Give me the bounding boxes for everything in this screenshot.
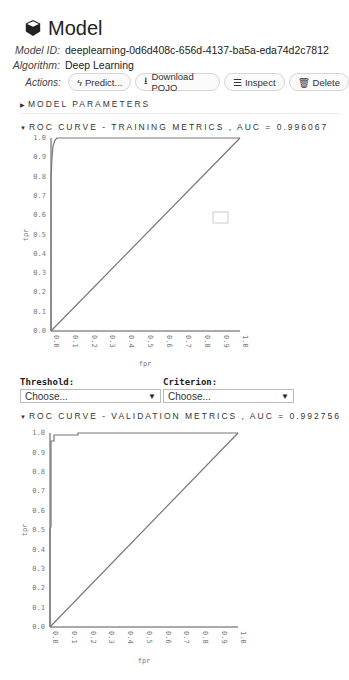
svg-text:0.3: 0.3 — [108, 335, 116, 348]
model-id-value: deeplearning-0d6d408c-656d-4137-ba5a-eda… — [65, 44, 329, 56]
svg-text:0.6: 0.6 — [164, 631, 172, 644]
diagonal-line — [51, 138, 240, 331]
y-axis: 0.00.10.2 0.30.40.5 0.60.70.8 0.91.0 tpr — [22, 134, 51, 335]
svg-text:1.0: 1.0 — [33, 134, 46, 142]
svg-text:0.9: 0.9 — [32, 449, 45, 457]
model-id-label: Model ID: — [0, 44, 60, 56]
svg-text:0.4: 0.4 — [33, 250, 46, 258]
validation-roc-chart: 0.00.10.2 0.30.40.5 0.60.70.8 0.91.0 tpr… — [0, 425, 349, 675]
x-axis: 0.00.1 0.20.3 0.40.5 0.60.7 0.80.9 1.0 f… — [51, 331, 249, 368]
page-title-text: Model — [48, 17, 102, 40]
svg-text:0.1: 0.1 — [70, 631, 78, 644]
y-axis: 0.00.10.2 0.30.40.5 0.60.70.8 0.91.0 tpr — [21, 429, 50, 631]
svg-text:0.2: 0.2 — [33, 288, 46, 296]
download-icon: ⭳ — [144, 74, 148, 90]
svg-text:0.1: 0.1 — [32, 604, 45, 612]
inspect-button[interactable]: ☰ Inspect — [224, 73, 285, 91]
svg-text:0.4: 0.4 — [32, 546, 45, 554]
svg-text:0.2: 0.2 — [90, 335, 98, 348]
validation-roc-toggle[interactable]: ▼ROC CURVE - VALIDATION METRICS , AUC = … — [20, 411, 341, 421]
svg-text:0.9: 0.9 — [222, 335, 230, 348]
svg-text:tpr: tpr — [22, 229, 30, 242]
criterion-select[interactable]: Choose... ▼ — [163, 389, 294, 403]
svg-text:tpr: tpr — [21, 524, 29, 537]
svg-text:0.7: 0.7 — [33, 192, 46, 200]
list-icon: ☰ — [233, 77, 242, 88]
diagonal-line — [50, 433, 238, 627]
svg-text:0.2: 0.2 — [32, 584, 45, 592]
svg-text:0.4: 0.4 — [127, 335, 135, 348]
algorithm-row: Algorithm: Deep Learning — [0, 59, 134, 71]
threshold-label: Threshold: — [20, 377, 74, 387]
svg-text:1.0: 1.0 — [239, 631, 247, 644]
actions-label: Actions: — [25, 77, 61, 88]
svg-text:0.1: 0.1 — [33, 308, 46, 316]
svg-text:0.3: 0.3 — [32, 565, 45, 573]
svg-text:0.5: 0.5 — [32, 526, 45, 534]
svg-text:0.3: 0.3 — [33, 269, 46, 277]
svg-text:0.7: 0.7 — [182, 631, 190, 644]
svg-text:0.6: 0.6 — [33, 211, 46, 219]
bolt-icon: ϟ — [77, 77, 82, 88]
svg-text:0.7: 0.7 — [184, 335, 192, 348]
svg-text:0.5: 0.5 — [33, 231, 46, 239]
svg-text:0.8: 0.8 — [32, 468, 45, 476]
svg-text:0.4: 0.4 — [126, 631, 134, 644]
svg-text:fpr: fpr — [138, 657, 151, 665]
algorithm-label: Algorithm: — [0, 59, 60, 71]
svg-text:0.0: 0.0 — [33, 327, 46, 335]
svg-text:0.1: 0.1 — [71, 335, 79, 348]
delete-button[interactable]: 🗑 Delete — [289, 73, 349, 91]
x-axis: 0.00.1 0.20.3 0.40.5 0.60.7 0.80.9 1.0 f… — [50, 627, 247, 665]
tooltip-box — [213, 212, 228, 223]
svg-text:0.5: 0.5 — [146, 335, 154, 348]
criterion-label: Criterion: — [163, 377, 217, 387]
threshold-select[interactable]: Choose... ▼ — [20, 389, 161, 403]
svg-text:0.0: 0.0 — [32, 623, 45, 631]
dropdown-arrow-icon: ▼ — [281, 392, 289, 401]
actions-row: Actions: ϟ Predict... ⭳ Download POJO ☰ … — [25, 73, 349, 91]
divider — [20, 113, 341, 114]
svg-text:0.0: 0.0 — [51, 631, 59, 644]
caret-down-icon: ▼ — [20, 414, 26, 420]
svg-text:0.8: 0.8 — [201, 631, 209, 644]
svg-text:0.8: 0.8 — [33, 173, 46, 181]
svg-text:fpr: fpr — [139, 360, 152, 368]
svg-text:0.6: 0.6 — [32, 507, 45, 515]
svg-text:1.0: 1.0 — [241, 335, 249, 348]
training-roc-chart: 0.00.10.2 0.30.40.5 0.60.70.8 0.91.0 tpr… — [0, 130, 349, 370]
svg-text:0.6: 0.6 — [165, 335, 173, 348]
model-id-row: Model ID: deeplearning-0d6d408c-656d-413… — [0, 44, 329, 56]
download-pojo-button[interactable]: ⭳ Download POJO — [135, 73, 219, 91]
model-parameters-toggle[interactable]: ▶MODEL PARAMETERS — [20, 99, 150, 109]
dropdown-arrow-icon: ▼ — [148, 392, 156, 401]
svg-text:0.3: 0.3 — [107, 631, 115, 644]
predict-button[interactable]: ϟ Predict... — [68, 73, 132, 91]
page-title: Model — [24, 16, 102, 40]
svg-text:0.8: 0.8 — [203, 335, 211, 348]
svg-text:0.7: 0.7 — [32, 487, 45, 495]
svg-text:0.2: 0.2 — [89, 631, 97, 644]
svg-text:0.0: 0.0 — [52, 335, 60, 348]
algorithm-value: Deep Learning — [65, 59, 134, 71]
caret-right-icon: ▶ — [20, 102, 25, 108]
svg-text:0.5: 0.5 — [145, 631, 153, 644]
svg-text:0.9: 0.9 — [220, 631, 228, 644]
svg-text:0.9: 0.9 — [33, 153, 46, 161]
cube-icon — [24, 19, 42, 37]
svg-text:1.0: 1.0 — [32, 429, 45, 437]
trash-icon: 🗑 — [298, 77, 310, 88]
